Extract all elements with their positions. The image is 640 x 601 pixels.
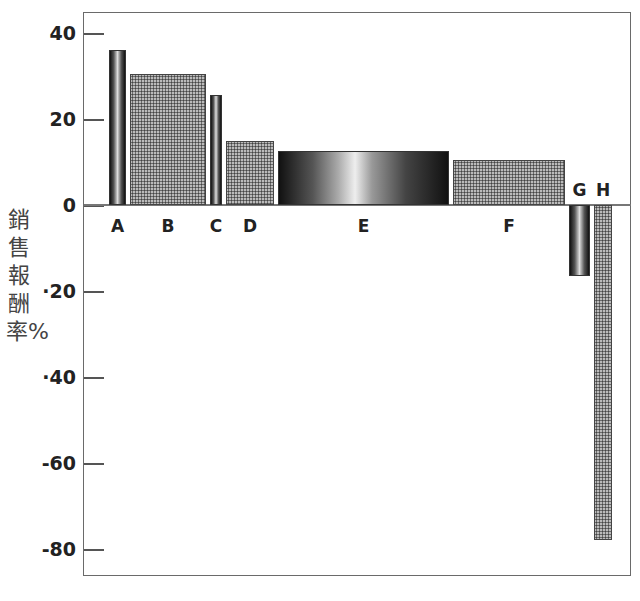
y-tick [84, 291, 104, 293]
category-label-f: F [494, 216, 524, 236]
y-tick [84, 119, 104, 121]
bar-d [226, 141, 274, 206]
y-tick [84, 377, 104, 379]
category-label-b: B [153, 216, 183, 236]
bar-f [453, 160, 565, 205]
y-axis-label: 銷售報酬率% [6, 206, 32, 346]
category-label-d: D [235, 216, 265, 236]
y-tick-label: 20 [0, 109, 76, 129]
y-tick-label: -60 [0, 453, 76, 473]
y-tick-label: 0 [0, 195, 76, 215]
bar-b [130, 74, 206, 205]
bar-c [210, 95, 222, 205]
y-tick-label: ·40 [0, 367, 76, 387]
category-label-e: E [349, 216, 379, 236]
category-label-h: H [588, 180, 618, 200]
y-tick-label: -80 [0, 539, 76, 559]
bar-a [109, 50, 126, 205]
y-tick [84, 33, 104, 35]
bar-h [594, 205, 612, 540]
y-tick [84, 463, 104, 465]
bar-e [278, 151, 449, 205]
category-label-a: A [103, 216, 133, 236]
y-axis-label-text: 銷售報酬率% [6, 207, 49, 344]
category-label-c: C [201, 216, 231, 236]
y-tick [84, 549, 104, 551]
y-tick-label: 40 [0, 23, 76, 43]
bar-g [569, 205, 590, 276]
y-tick-label: ·20 [0, 281, 76, 301]
